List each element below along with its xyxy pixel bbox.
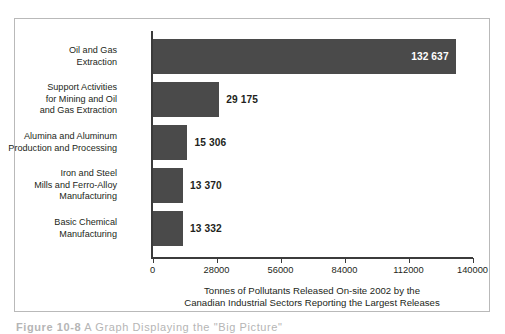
bar <box>153 211 183 246</box>
bar-chart-plot-area: Oil and Gas Extraction132 637Support Act… <box>15 19 489 311</box>
x-axis-tick-mark <box>409 258 410 263</box>
bar-row: Iron and Steel Mills and Ferro-Alloy Man… <box>15 168 489 203</box>
bar-value-label: 132 637 <box>411 51 449 62</box>
figure-frame: Oil and Gas Extraction132 637Support Act… <box>14 18 490 312</box>
x-axis-tick-label: 0 <box>150 265 155 275</box>
x-axis-tick-label: 140000 <box>457 265 488 275</box>
figure-caption: Figure 10-8 A Graph Displaying the "Big … <box>16 321 283 333</box>
figure-caption-text: A Graph Displaying the "Big Picture" <box>84 321 282 333</box>
bar-row: Support Activities for Mining and Oil an… <box>15 82 489 117</box>
x-axis-tick-label: 112000 <box>393 265 423 275</box>
x-axis-tick-mark <box>217 258 218 263</box>
bar-category-label: Basic Chemical Manufacturing <box>0 217 117 240</box>
bar-value-label: 13 332 <box>190 223 222 234</box>
bar-category-label: Iron and Steel Mills and Ferro-Alloy Man… <box>0 168 117 202</box>
x-axis-tick-label: 56000 <box>268 265 294 275</box>
x-axis-tick-mark <box>345 258 346 263</box>
bar-category-label: Oil and Gas Extraction <box>0 45 117 68</box>
x-axis-tick-label: 28000 <box>204 265 230 275</box>
x-axis-line <box>151 257 473 259</box>
x-axis-tick-mark <box>473 258 474 263</box>
x-axis-title: Tonnes of Pollutants Released On-site 20… <box>151 285 473 309</box>
bar-row: Oil and Gas Extraction132 637 <box>15 39 489 74</box>
figure-caption-number: Figure 10-8 <box>16 321 81 333</box>
bar-value-label: 29 175 <box>226 94 258 105</box>
x-axis-title-line-1: Tonnes of Pollutants Released On-site 20… <box>151 285 473 297</box>
bar-value-label: 13 370 <box>190 180 222 191</box>
bar-value-label: 15 306 <box>194 137 226 148</box>
x-axis-tick-label: 84000 <box>332 265 358 275</box>
bar <box>153 168 184 203</box>
bar-category-label: Alumina and Aluminum Production and Proc… <box>0 131 117 154</box>
bar-row: Alumina and Aluminum Production and Proc… <box>15 125 489 160</box>
bar-category-label: Support Activities for Mining and Oil an… <box>0 82 117 116</box>
bar <box>153 125 188 160</box>
x-axis-tick-mark <box>153 258 154 263</box>
bar <box>153 82 220 117</box>
bar-row: Basic Chemical Manufacturing13 332 <box>15 211 489 246</box>
x-axis-title-line-2: Canadian Industrial Sectors Reporting th… <box>151 297 473 309</box>
x-axis-tick-mark <box>281 258 282 263</box>
